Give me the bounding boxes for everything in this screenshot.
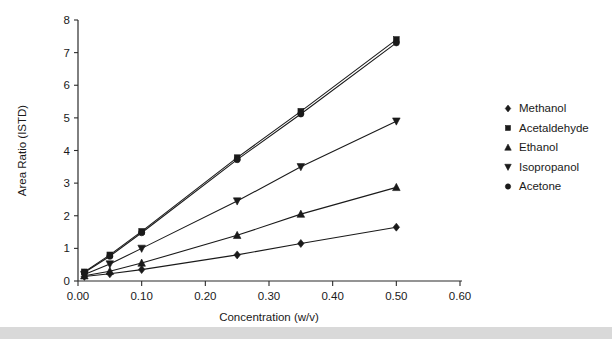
- legend-item-ethanol[interactable]: Ethanol: [505, 141, 558, 153]
- footer-bar: [0, 327, 612, 339]
- y-axis-title: Area Ratio (ISTD): [16, 105, 28, 197]
- data-point-triangle-down: [106, 261, 114, 268]
- data-point-diamond: [298, 239, 304, 247]
- legend-item-acetaldehyde[interactable]: Acetaldehyde: [506, 122, 589, 134]
- x-tick-label: 0.60: [449, 290, 471, 302]
- series-line: [84, 187, 396, 275]
- data-point-diamond: [234, 251, 240, 259]
- y-tick-label: 1: [64, 242, 70, 254]
- series-methanol: [81, 223, 399, 280]
- y-tick-label: 6: [64, 79, 70, 91]
- legend-item-acetone[interactable]: Acetone: [505, 180, 561, 192]
- series-layer: [81, 37, 401, 281]
- data-point-circle: [107, 253, 113, 259]
- data-point-diamond: [505, 105, 510, 112]
- data-point-circle: [139, 230, 145, 236]
- x-tick-label: 0.00: [67, 290, 89, 302]
- y-axis: 012345678: [64, 14, 78, 287]
- data-point-circle: [81, 269, 87, 275]
- x-axis-title: Concentration (w/v): [219, 311, 319, 323]
- data-point-triangle-up: [505, 144, 511, 150]
- data-point-circle: [234, 157, 240, 163]
- y-tick-label: 3: [64, 177, 70, 189]
- legend-item-label: Acetaldehyde: [519, 122, 589, 134]
- series-acetaldehyde: [81, 37, 399, 275]
- x-tick-label: 0.30: [258, 290, 280, 302]
- data-point-triangle-down: [233, 198, 241, 205]
- legend-item-label: Isopropanol: [519, 161, 579, 173]
- data-point-diamond: [393, 223, 399, 231]
- data-point-triangle-up: [393, 183, 401, 190]
- data-point-triangle-down: [393, 118, 401, 125]
- y-tick-label: 8: [64, 14, 70, 26]
- y-tick-label: 7: [64, 47, 70, 59]
- data-point-square: [506, 126, 511, 131]
- y-tick-label: 4: [64, 145, 71, 157]
- data-point-circle: [393, 40, 399, 46]
- x-tick-label: 0.20: [194, 290, 216, 302]
- legend-item-label: Methanol: [519, 102, 566, 114]
- y-tick-label: 2: [64, 210, 70, 222]
- x-tick-label: 0.40: [321, 290, 343, 302]
- calibration-curve-chart: 012345678 0.000.100.200.300.400.500.60 M…: [0, 0, 612, 339]
- data-point-triangle-down: [505, 164, 511, 170]
- x-tick-label: 0.50: [385, 290, 407, 302]
- x-tick-label: 0.10: [130, 290, 152, 302]
- x-axis: 0.000.100.200.300.400.500.60: [67, 281, 471, 302]
- legend-item-label: Ethanol: [519, 141, 558, 153]
- data-point-triangle-down: [138, 245, 146, 252]
- data-point-circle: [298, 111, 304, 117]
- legend-item-label: Acetone: [519, 180, 561, 192]
- data-point-diamond: [138, 266, 144, 274]
- chart-legend: MethanolAcetaldehydeEthanolIsopropanolAc…: [505, 102, 589, 192]
- legend-item-methanol[interactable]: Methanol: [505, 102, 566, 114]
- chart-figure: 012345678 0.000.100.200.300.400.500.60 M…: [0, 0, 612, 339]
- legend-item-isopropanol[interactable]: Isopropanol: [505, 161, 579, 173]
- y-tick-label: 5: [64, 112, 70, 124]
- data-point-triangle-down: [297, 164, 305, 171]
- data-point-circle: [505, 184, 510, 189]
- y-tick-label: 0: [64, 275, 70, 287]
